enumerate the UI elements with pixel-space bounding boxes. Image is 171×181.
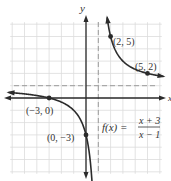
point-marker	[47, 96, 52, 101]
x-axis-label: x	[167, 93, 171, 103]
point-label-2-5: (2, 5)	[113, 36, 135, 48]
point-label-neg3-0: (−3, 0)	[26, 105, 53, 117]
y-axis-label: y	[79, 2, 85, 14]
svg-text:x − 1: x − 1	[138, 129, 160, 140]
y-axis	[84, 15, 89, 179]
point-label-5-2: (5, 2)	[135, 61, 157, 73]
point-marker	[84, 133, 89, 138]
point-label-0-neg3: (0, −3)	[47, 132, 74, 144]
x-axis	[4, 96, 166, 101]
svg-text:f(x) =: f(x) =	[102, 121, 127, 134]
svg-text:x + 3: x + 3	[138, 115, 160, 126]
graph-canvas: y x (2, 5) (5, 2) (−3, 0) (0, −3) f(x) =…	[0, 0, 171, 181]
